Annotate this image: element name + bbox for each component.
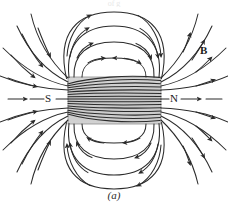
magnetic-field-diagram xyxy=(0,0,228,215)
arrowheads-loops-top xyxy=(67,15,161,63)
field-lines-inside-magnet xyxy=(68,76,162,121)
magnetic-field-vector-label: B xyxy=(200,45,207,56)
field-lines-loops-top xyxy=(64,12,164,79)
north-pole-label: N xyxy=(170,93,178,104)
arrowheads-loops-bottom xyxy=(67,138,161,186)
figure-caption: (a) xyxy=(0,190,228,201)
field-lines-loops-bottom xyxy=(64,123,164,190)
figure-container: of g xyxy=(0,0,228,215)
south-pole-label: S xyxy=(45,93,51,104)
